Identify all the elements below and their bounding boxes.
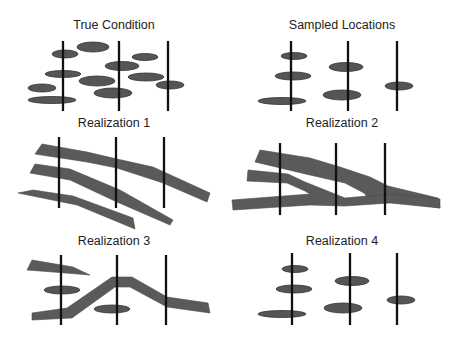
sand-lens-ellipse (276, 285, 312, 293)
sand-lens-ellipse (105, 62, 139, 71)
panel-title: True Condition (73, 18, 155, 32)
panel-title: Realization 1 (78, 116, 150, 130)
sand-lens-ellipse (258, 98, 306, 105)
sand-lens-ellipse (156, 81, 184, 89)
panel-title: Realization 2 (306, 116, 378, 130)
panel-title: Realization 4 (306, 234, 378, 248)
sand-lens-ellipse (258, 311, 306, 318)
sand-lens-ellipse (324, 303, 362, 313)
sand-lens-ellipse (281, 53, 307, 60)
sand-lens-ellipse (28, 97, 76, 104)
sand-lens-ellipse (132, 54, 158, 61)
sand-lens-ellipse (385, 82, 413, 90)
sand-lens-ellipse (323, 90, 361, 100)
sand-lens-ellipse (94, 88, 132, 98)
sand-lens-ellipse (387, 296, 415, 304)
sand-lens-ellipse (52, 50, 78, 58)
sand-lens-ellipse (335, 277, 369, 286)
sand-lens-ellipse (77, 42, 109, 52)
geostatistical-realizations-figure: True ConditionSampled LocationsRealizati… (0, 0, 457, 342)
panel-title: Sampled Locations (289, 18, 395, 32)
sand-lens-ellipse (275, 72, 311, 80)
panel-title: Realization 3 (78, 234, 150, 248)
sand-lens-ellipse (329, 63, 363, 72)
sand-lens-ellipse (94, 305, 130, 313)
sand-lens-ellipse (79, 76, 115, 86)
sand-lens-ellipse (128, 73, 164, 81)
sand-lens-ellipse (282, 266, 308, 273)
sand-lens-ellipse (28, 84, 56, 92)
